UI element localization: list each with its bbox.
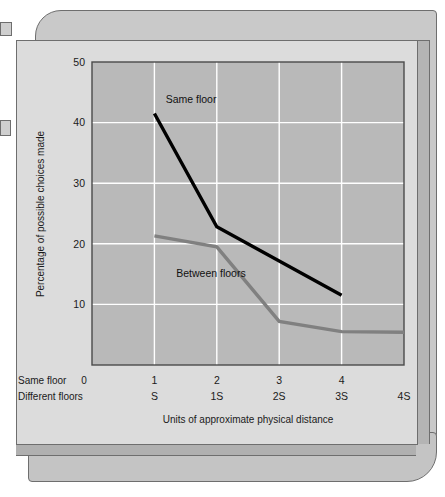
series-annotation: Same floor (166, 93, 217, 105)
y-axis-title: Percentage of possible choices made (35, 130, 46, 297)
line-chart: 1020304050 1234S1S2S3S4S Same floorBetwe… (16, 40, 416, 443)
x-tick-label-row2: S (151, 390, 158, 402)
x-tick-label-row1: 1 (151, 374, 157, 386)
x-tick-label-row1: 4 (339, 374, 345, 386)
card-right-edge (416, 40, 430, 444)
x-axis-tick-labels: 1234S1S2S3S4S (151, 374, 411, 402)
x-axis-row-label-different-floors: Different floors (18, 391, 83, 402)
y-axis-tick-labels: 1020304050 (73, 56, 85, 310)
x-axis-origin-label: 0 (81, 375, 87, 386)
y-tick-label: 30 (73, 177, 85, 189)
plot-background (92, 62, 404, 365)
x-tick-label-row2: 1S (210, 390, 223, 402)
x-axis-row-label-same-floor: Same floor (18, 375, 67, 386)
x-tick-label-row1: 3 (276, 374, 282, 386)
x-tick-label-row2: 4S (398, 390, 411, 402)
page-edge-marker-top (0, 22, 12, 36)
x-tick-label-row2: 2S (273, 390, 286, 402)
x-tick-label-row2: 3S (335, 390, 348, 402)
y-tick-label: 10 (73, 298, 85, 310)
series-annotation: Between floors (176, 267, 245, 279)
y-tick-label: 40 (73, 116, 85, 128)
y-tick-label: 20 (73, 238, 85, 250)
x-axis-title: Units of approximate physical distance (163, 414, 334, 425)
chart-container: 1020304050 1234S1S2S3S4S Same floorBetwe… (16, 40, 416, 443)
page-edge-marker-middle (0, 120, 11, 136)
y-tick-label: 50 (73, 56, 85, 68)
x-tick-label-row1: 2 (214, 374, 220, 386)
figure-root: 1020304050 1234S1S2S3S4S Same floorBetwe… (0, 0, 445, 497)
